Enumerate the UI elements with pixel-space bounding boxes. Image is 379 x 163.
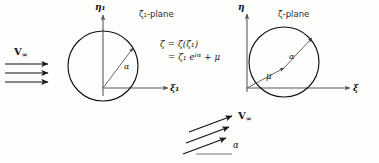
left-plane-group [68,15,168,101]
freestream-bottom-label: V∞ [238,111,252,122]
left-vertical-axis-label: η₁ [95,3,106,12]
right-vertical-axis-label: η [238,3,245,12]
equation-equals-2: = [168,52,175,62]
figure-vector-layer [0,0,379,163]
right-angle-label: α [289,53,294,61]
freestream-bottom-angle-label: α [233,141,239,150]
right-plane-group [247,14,350,97]
equation-lhs-symbol: ζ [160,39,165,49]
freestream-left-label: V∞ [14,47,28,58]
equation-rhs-1: ζ(ζ₁) [178,39,198,49]
freestream-arrow-inclined [189,116,232,132]
freestream-left-arrows [5,64,48,82]
freestream-arrow-inclined [183,138,226,154]
conformal-mapping-figure: η₁ ζ₁-plane ξ₁ α η ζ-plane ξ α μ ζ = ζ(ζ… [0,0,379,163]
right-plane-title: ζ-plane [278,10,309,19]
left-plane-title: ζ₁-plane [139,10,174,19]
right-radius-arrow [282,38,312,70]
equation-rhs-2-exponent: iα [195,51,201,58]
equation-rhs-2-base: ζ₁ e [178,52,195,62]
freestream-bottom-infinity: ∞ [246,114,252,123]
equation-rhs-2-tail: + μ [204,52,220,62]
left-angle-label: α [124,63,129,71]
mapping-equation-line-1: ζ = ζ(ζ₁) [160,40,198,49]
right-horizontal-axis-label: ξ [353,84,358,93]
right-mu-label: μ [266,72,272,81]
equation-equals-1: = [168,39,175,49]
freestream-bottom-v: V [238,110,246,121]
mapping-equation-line-2: = ζ₁ eiα + μ [168,52,220,61]
freestream-left-v: V [14,46,22,57]
freestream-left-infinity: ∞ [22,50,28,59]
freestream-arrow-inclined [186,127,229,143]
right-circle [249,27,319,97]
left-horizontal-axis-label: ξ₁ [170,84,179,93]
freestream-bottom-arrows [183,116,232,154]
